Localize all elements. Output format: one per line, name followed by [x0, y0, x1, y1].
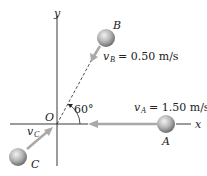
x-axis-label: x: [195, 118, 202, 131]
ball-c-label: C: [31, 158, 40, 171]
y-axis-label: y: [53, 7, 61, 20]
velocity-a-symbol: v: [134, 101, 141, 114]
ball-b-label: B: [112, 19, 121, 32]
velocity-c-symbol: v: [27, 125, 34, 138]
collision-diagram: y x O 60° B v B = 0.50 m/s A v A = 1.50 …: [0, 0, 207, 176]
velocity-a-arrowhead-icon: [88, 120, 98, 128]
velocity-b-symbol: v: [103, 50, 110, 63]
angle-arrowhead-icon: [68, 104, 73, 108]
velocity-b-value: = 0.50 m/s: [118, 50, 179, 63]
velocity-a-value: = 1.50 m/s: [149, 101, 207, 114]
velocity-c-sub: C: [34, 130, 40, 139]
velocity-b-sub: B: [110, 55, 115, 64]
ball-a: [157, 115, 175, 133]
velocity-a-sub: A: [140, 106, 146, 115]
ball-c: [9, 148, 27, 166]
angle-label: 60°: [74, 103, 94, 116]
ball-a-label: A: [161, 135, 170, 148]
velocity-b-arrow: [94, 46, 100, 56]
origin-label: O: [45, 111, 54, 124]
